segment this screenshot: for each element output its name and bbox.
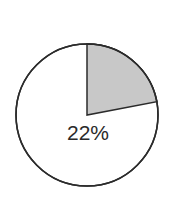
pie-chart [0, 0, 174, 217]
pie-slice-highlighted [87, 44, 157, 115]
percent-label: 22% [0, 121, 174, 145]
